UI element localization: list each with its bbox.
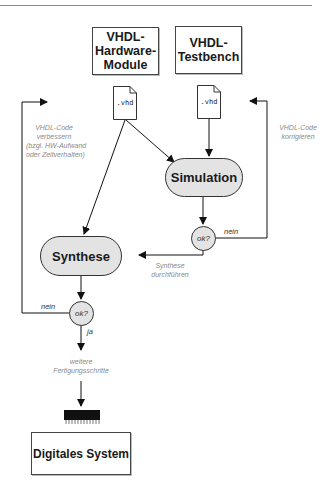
- note-line: oder Zeitverhalten): [26, 150, 82, 159]
- simulation-label: Simulation: [171, 170, 237, 185]
- hw-file-label: .vhd: [113, 99, 137, 107]
- tb-label-line: Testbench: [178, 50, 240, 64]
- vhd-file-icon: .vhd: [197, 85, 221, 119]
- hw-label-line: Hardware-: [95, 44, 156, 58]
- note-right-feedback: VHDL-Code korrigieren: [275, 123, 321, 141]
- note-synthese-run: Synthese durchführen: [148, 261, 192, 279]
- tb-file-label: .vhd: [197, 98, 221, 106]
- hw-label-line: Module: [95, 58, 156, 72]
- edge-label-syn-nein: nein: [41, 302, 55, 311]
- sim-check-label: ok?: [197, 234, 210, 243]
- note-line: weitere: [51, 357, 111, 366]
- tb-label-line: VHDL-: [178, 36, 240, 50]
- output-box-digital-system: Digitales System: [31, 432, 131, 475]
- input-box-hardware-module: VHDL- Hardware- Module: [92, 27, 159, 75]
- process-synthese: Synthese: [40, 236, 122, 276]
- note-line: VHDL-Code: [275, 123, 321, 132]
- synthese-label: Synthese: [52, 249, 110, 264]
- note-line: verbessern: [26, 132, 82, 141]
- vhd-file-icon: .vhd: [113, 86, 137, 120]
- output-label: Digitales System: [33, 447, 129, 461]
- edge-label-syn-ja: ja: [87, 327, 93, 336]
- note-line: (bzgl. HW-Aufwand: [26, 141, 82, 150]
- note-left-feedback: VHDL-Code verbessern (bzgl. HW-Aufwand o…: [26, 123, 82, 159]
- note-line: Fertigungsschritte: [51, 366, 111, 375]
- syn-check-label: ok?: [75, 309, 88, 318]
- note-line: Synthese: [148, 261, 192, 270]
- note-line: durchführen: [148, 270, 192, 279]
- input-box-testbench: VHDL- Testbench: [175, 26, 242, 74]
- process-simulation: Simulation: [165, 158, 243, 197]
- ic-chip-icon: [64, 410, 100, 425]
- decision-synthese-ok: ok?: [69, 301, 94, 326]
- note-line: korrigieren: [275, 132, 321, 141]
- note-further-steps: weitere Fertigungsschritte: [51, 357, 111, 375]
- edge-label-sim-nein: nein: [224, 227, 238, 236]
- hw-label-line: VHDL-: [95, 30, 156, 44]
- decision-simulation-ok: ok?: [191, 226, 216, 251]
- note-line: VHDL-Code: [26, 123, 82, 132]
